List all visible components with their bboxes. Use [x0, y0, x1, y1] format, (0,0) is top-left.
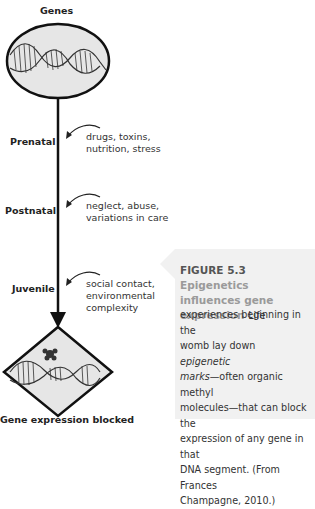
stage-postnatal-label: Postnatal: [5, 205, 56, 216]
postnatal-influences: neglect, abuse, variations in care: [86, 200, 168, 224]
figure-caption-text: experiences beginning in the womb lay do…: [180, 307, 308, 509]
genes-ellipse: [7, 24, 109, 98]
genes-label: Genes: [40, 5, 73, 16]
prenatal-influences: drugs, toxins, nutrition, stress: [86, 131, 161, 155]
figure-number: FIGURE 5.3: [180, 264, 246, 276]
blocked-gene-diamond: [4, 327, 112, 416]
gene-expression-blocked-label: Gene expression blocked: [0, 414, 134, 425]
stage-juvenile-label: Juvenile: [12, 283, 55, 294]
stage-prenatal-label: Prenatal: [10, 136, 55, 147]
caption-notch: [160, 249, 175, 279]
juvenile-influences: social contact, environmental complexity: [86, 278, 155, 314]
